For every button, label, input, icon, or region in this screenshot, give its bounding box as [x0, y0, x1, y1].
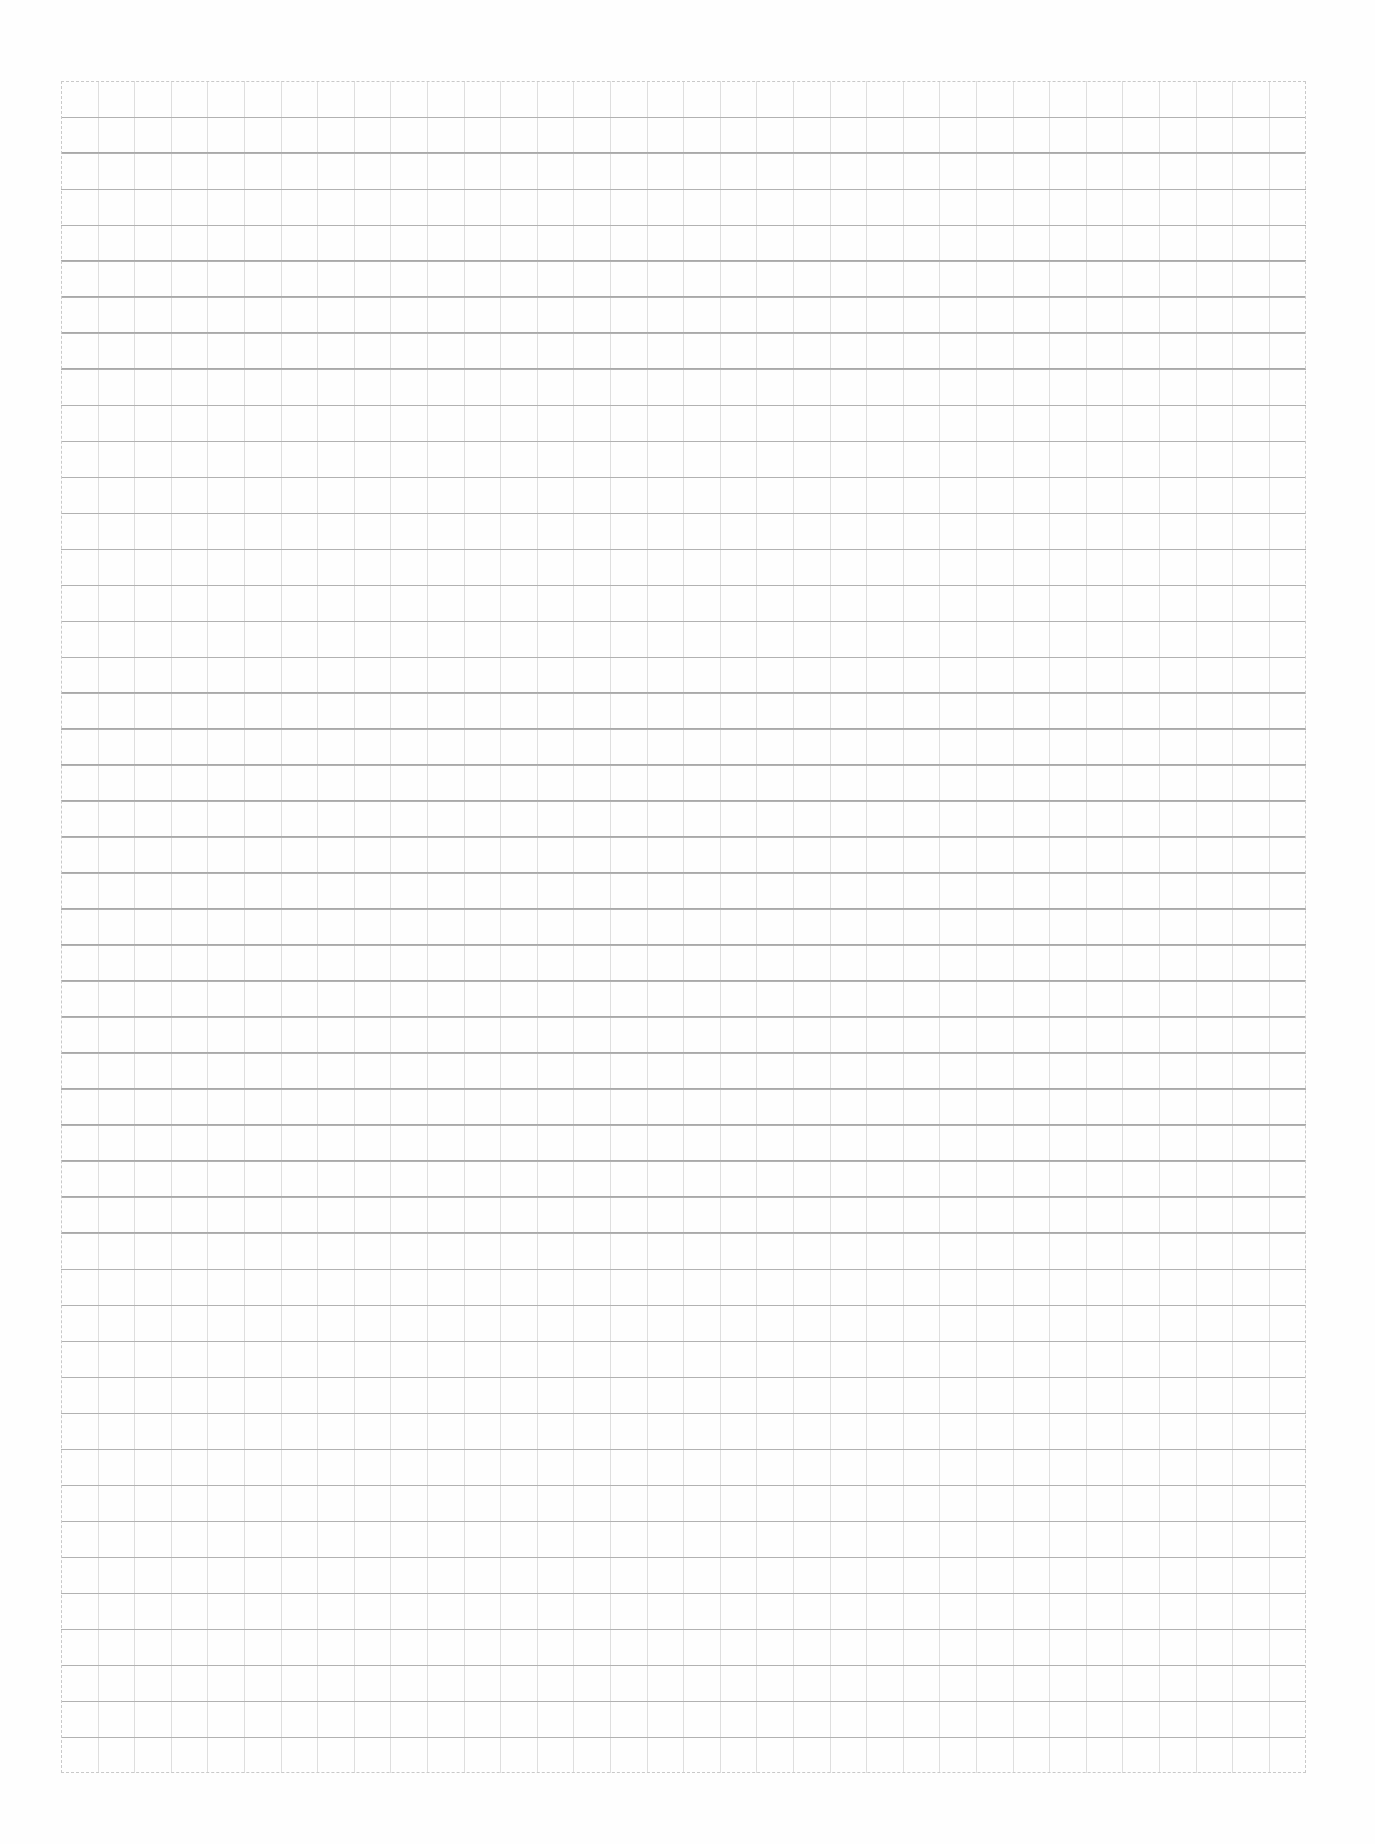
paper-sheet: [0, 0, 1375, 1844]
grid-text-content: [62, 82, 63, 83]
grid-area: [61, 81, 1306, 1773]
